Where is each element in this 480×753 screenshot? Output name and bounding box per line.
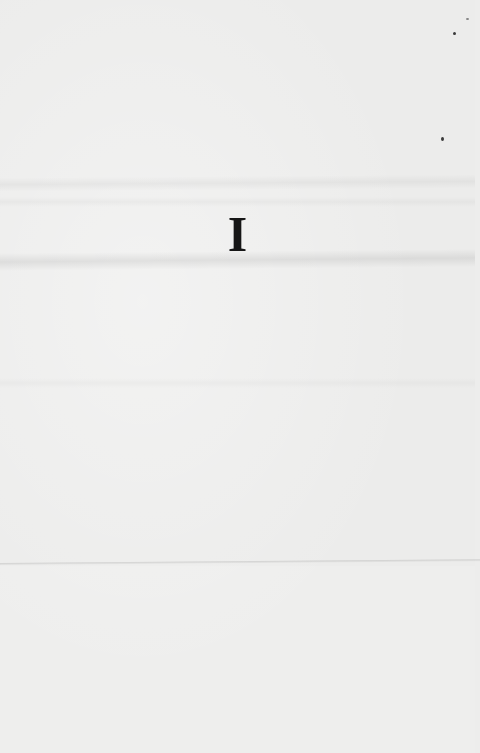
dust-speck (466, 18, 469, 20)
scan-band (0, 174, 475, 191)
page-lower-fold-region (0, 566, 475, 753)
page-fold-line (0, 559, 480, 565)
scan-band (0, 378, 475, 388)
dust-speck (441, 137, 444, 141)
section-heading-numeral: I (0, 209, 475, 259)
dust-speck (453, 32, 456, 35)
